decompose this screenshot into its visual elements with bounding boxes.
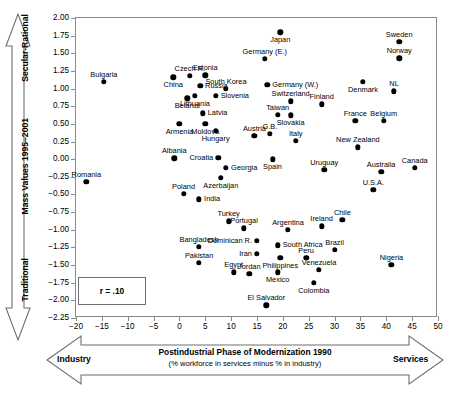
data-point: [355, 144, 360, 149]
data-point-label: Iran: [239, 250, 252, 258]
y-axis-top-label: Secular-Rational: [20, 14, 30, 82]
data-point: [197, 83, 202, 88]
data-point: [192, 93, 197, 98]
y-tick-label: 0.75: [53, 102, 69, 110]
data-point-label: Philippines: [262, 262, 298, 270]
scatter-plot-figure: Secular-Rational Mass Values 1995–2001 T…: [0, 0, 450, 398]
data-point-label: New Zealand: [336, 136, 380, 144]
data-point-label: Switzerland: [272, 90, 310, 98]
x-tick-mark: [438, 316, 439, 321]
x-tick-label: −5: [149, 323, 158, 331]
data-point-label: Germany (E.): [243, 48, 287, 56]
data-point: [371, 187, 376, 192]
data-point-label: Romania: [72, 171, 102, 179]
data-point-label: Argentina: [272, 219, 304, 227]
x-tick-mark: [179, 316, 180, 321]
data-point-label: Georgia: [231, 164, 257, 172]
y-tick-label: −1.50: [48, 261, 69, 269]
data-point-label: Nigeria: [380, 254, 403, 262]
data-point: [172, 156, 177, 161]
x-tick-mark: [205, 316, 206, 321]
data-point-label: Denmark: [348, 86, 378, 94]
data-point-label: Japan: [270, 36, 290, 44]
data-point: [213, 93, 218, 98]
data-point-label: Germany (W.): [272, 81, 318, 89]
data-point-label: El Salvador: [247, 294, 285, 302]
x-axis-title: Postindustrial Phase of Modernization 19…: [120, 347, 370, 358]
data-point-label: Bulgaria: [90, 71, 117, 79]
y-tick-mark: [71, 300, 76, 301]
data-point-label: G.B.: [263, 123, 278, 131]
data-point-label: Czech R.: [175, 65, 205, 73]
data-point-label: Australia: [367, 161, 396, 169]
data-point-label: India: [204, 196, 220, 204]
data-point-label: Pakistan: [185, 252, 213, 260]
y-axis-title: Mass Values 1995–2001: [20, 118, 30, 215]
data-point: [254, 251, 259, 256]
y-tick-label: 0.50: [53, 120, 69, 128]
data-point: [181, 191, 186, 196]
y-tick-label: −2.25: [48, 314, 69, 322]
plot-area: 2.001.751.501.251.000.750.500.250.00−0.2…: [75, 17, 437, 317]
data-point: [265, 82, 270, 87]
x-tick-mark: [386, 316, 387, 321]
data-point-label: U.S.A.: [363, 179, 384, 187]
data-point: [360, 79, 365, 84]
data-point: [319, 101, 324, 106]
y-tick-label: −1.00: [48, 226, 69, 234]
x-tick-label: 45: [408, 323, 417, 331]
data-point: [311, 280, 316, 285]
x-tick-label: −10: [121, 323, 135, 331]
data-point-label: Peru: [298, 247, 314, 255]
y-tick-label: −1.25: [48, 243, 69, 251]
y-tick-label: −1.75: [48, 279, 69, 287]
data-point: [267, 131, 272, 136]
y-tick-label: 1.75: [53, 32, 69, 40]
data-point: [218, 175, 223, 180]
y-tick-mark: [71, 124, 76, 125]
data-point: [200, 111, 205, 116]
data-point: [319, 224, 324, 229]
data-point: [353, 118, 358, 123]
data-point: [288, 113, 293, 118]
data-point-label: Portugal: [230, 217, 258, 225]
y-tick-mark: [71, 265, 76, 266]
data-point: [196, 260, 201, 265]
x-axis-left-label: Industry: [57, 354, 91, 364]
x-tick-mark: [76, 316, 77, 321]
y-tick-mark: [71, 283, 76, 284]
data-point: [196, 197, 201, 202]
data-point-label: NL: [389, 80, 398, 88]
data-point: [332, 247, 337, 252]
data-point: [381, 118, 386, 123]
y-tick-label: −2.00: [48, 296, 69, 304]
x-tick-label: 40: [382, 323, 391, 331]
data-point: [84, 179, 89, 184]
data-point: [270, 156, 275, 161]
y-tick-label: 0.00: [53, 155, 69, 163]
data-point: [397, 56, 402, 61]
y-tick-label: −0.50: [48, 190, 69, 198]
data-point-label: Belgium: [370, 110, 397, 118]
correlation-annotation: r = .10: [78, 277, 146, 305]
y-tick-label: 2.00: [53, 14, 69, 22]
data-point: [322, 167, 327, 172]
y-tick-label: 0.25: [53, 138, 69, 146]
data-point: [196, 244, 201, 249]
x-tick-label: 5: [203, 323, 208, 331]
data-point: [223, 165, 228, 170]
data-point-label: Italy: [289, 130, 303, 138]
y-tick-mark: [71, 18, 76, 19]
data-point-label: Belarus: [175, 102, 200, 110]
y-tick-mark: [71, 71, 76, 72]
y-tick-mark: [71, 106, 76, 107]
data-point-label: China: [164, 81, 183, 89]
data-point-label: Chile: [334, 209, 351, 217]
x-tick-mark: [360, 316, 361, 321]
data-point-label: Mexico: [266, 276, 289, 284]
data-point: [275, 243, 280, 248]
correlation-value: r = .10: [100, 286, 124, 296]
data-point-label: Russia: [205, 82, 228, 90]
data-point-label: Spain: [263, 163, 282, 171]
data-point: [216, 155, 221, 160]
